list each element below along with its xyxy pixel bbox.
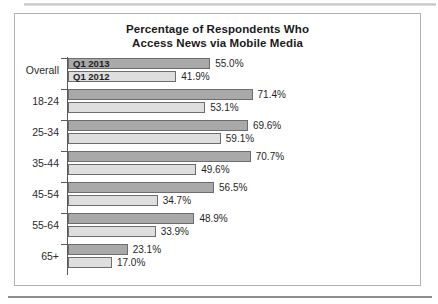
bar-value-label: 55.0% <box>215 58 243 69</box>
category-label-35-44: 35-44 <box>15 157 59 169</box>
bar-45-54-q1-2013 <box>68 182 214 193</box>
category-label-25-34: 25-34 <box>15 126 59 138</box>
bar-value-label: 71.4% <box>258 89 286 100</box>
bar-value-label: 34.7% <box>163 195 191 206</box>
bar-value-label: 70.7% <box>256 151 284 162</box>
table-row: 59.1% <box>68 133 418 144</box>
bar-value-label: 41.9% <box>181 71 209 82</box>
bar-35-44-q1-2012 <box>68 164 196 175</box>
axis-tick <box>61 120 68 121</box>
bar-value-label: 53.1% <box>210 102 238 113</box>
category-label-overall: Overall <box>15 64 59 76</box>
bar-value-label: 23.1% <box>133 244 161 255</box>
chart-title-line-1: Percentage of Respondents Who <box>15 22 420 36</box>
legend-label-q1-2012: Q1 2012 <box>73 71 109 82</box>
category-label-18-24: 18-24 <box>15 95 59 107</box>
bar-value-label: 33.9% <box>161 226 189 237</box>
chart-title-line-2: Access News via Mobile Media <box>15 36 420 50</box>
axis-tick <box>61 89 68 90</box>
table-row: 53.1% <box>68 102 418 113</box>
bar-value-label: 49.6% <box>201 164 229 175</box>
table-row: 56.5% <box>68 182 418 193</box>
axis-tick <box>61 213 68 214</box>
table-row: 70.7% <box>68 151 418 162</box>
chart-title: Percentage of Respondents Who Access New… <box>15 22 420 50</box>
category-label-55-64: 55-64 <box>15 219 59 231</box>
table-row: 23.1% <box>68 244 418 255</box>
legend-label-q1-2013: Q1 2013 <box>73 58 109 69</box>
table-row: Q1 201241.9% <box>68 71 418 82</box>
axis-tick <box>61 244 68 245</box>
bar-45-54-q1-2012 <box>68 195 158 206</box>
table-row: 49.6% <box>68 164 418 175</box>
bar-35-44-q1-2013 <box>68 151 251 162</box>
category-label-45-54: 45-54 <box>15 188 59 200</box>
bar-55-64-q1-2013 <box>68 213 194 224</box>
bar-value-label: 17.0% <box>117 257 145 268</box>
bar-value-label: 48.9% <box>199 213 227 224</box>
chart-frame: Percentage of Respondents Who Access New… <box>14 13 421 286</box>
axis-tick <box>61 182 68 183</box>
bar-value-label: 69.6% <box>253 120 281 131</box>
bar-value-label: 59.1% <box>226 133 254 144</box>
bar-65-q1-2013 <box>68 244 128 255</box>
bar-25-34-q1-2012 <box>68 133 221 144</box>
category-label-65: 65+ <box>15 250 59 262</box>
scan-artifact-top-rule <box>24 3 436 6</box>
table-row: 34.7% <box>68 195 418 206</box>
table-row: 33.9% <box>68 226 418 237</box>
bar-25-34-q1-2013 <box>68 120 248 131</box>
scan-artifact-bottom-rule <box>8 296 432 298</box>
table-row: 48.9% <box>68 213 418 224</box>
bar-65-q1-2012 <box>68 257 112 268</box>
table-row: 71.4% <box>68 89 418 100</box>
bar-18-24-q1-2013 <box>68 89 253 100</box>
table-row: 17.0% <box>68 257 418 268</box>
bar-18-24-q1-2012 <box>68 102 205 113</box>
axis-tick <box>61 151 68 152</box>
table-row: Q1 201355.0% <box>68 58 418 69</box>
plot-area: OverallQ1 201355.0%Q1 201241.9%18-2471.4… <box>15 57 422 285</box>
bar-55-64-q1-2012 <box>68 226 156 237</box>
bar-value-label: 56.5% <box>219 182 247 193</box>
axis-tick <box>61 58 68 59</box>
table-row: 69.6% <box>68 120 418 131</box>
